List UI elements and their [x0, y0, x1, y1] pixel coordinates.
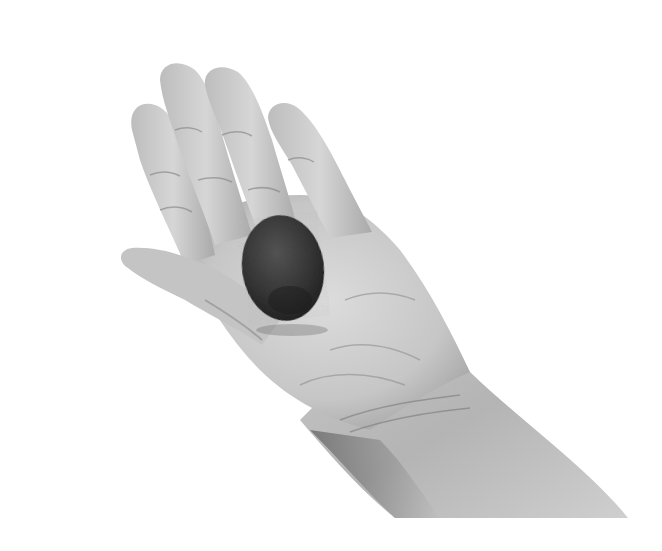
hand-illustration [0, 0, 662, 551]
photo: Black-and-white photograph of an open ha… [0, 0, 662, 551]
